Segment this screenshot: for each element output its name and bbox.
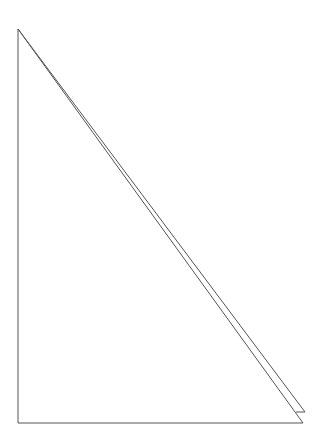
diagram-canvas xyxy=(0,0,324,445)
offset-hypotenuse-line xyxy=(18,29,305,412)
right-triangle-shape xyxy=(18,29,303,423)
